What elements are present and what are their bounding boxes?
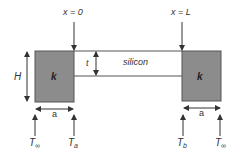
silicon-label: silicon bbox=[123, 58, 148, 67]
t-inf-left-sub: ∞ bbox=[35, 142, 40, 149]
right-block-k-label: k bbox=[197, 72, 203, 82]
t-b-label: Tb bbox=[177, 138, 187, 149]
height-label: H bbox=[14, 72, 21, 82]
t-a-sub: a bbox=[74, 142, 78, 149]
t-inf-left-label: T∞ bbox=[29, 138, 40, 149]
thickness-label: t bbox=[86, 59, 89, 68]
left-width-label: a bbox=[52, 110, 57, 119]
left-block-k-label: k bbox=[51, 72, 57, 82]
x0-label: x = 0 bbox=[63, 8, 83, 17]
t-inf-right-label: T∞ bbox=[215, 138, 226, 149]
t-a-label: Ta bbox=[68, 138, 78, 149]
diagram-canvas bbox=[0, 0, 240, 159]
t-b-sub: b bbox=[183, 142, 187, 149]
right-width-label: a bbox=[199, 109, 204, 118]
t-inf-right-sub: ∞ bbox=[221, 142, 226, 149]
xL-label: x = L bbox=[171, 8, 191, 17]
